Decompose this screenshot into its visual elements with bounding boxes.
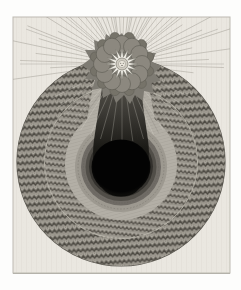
sun-face (118, 60, 125, 67)
engraving-page (0, 0, 241, 290)
engraving-image (0, 0, 241, 290)
black-void (92, 140, 151, 195)
